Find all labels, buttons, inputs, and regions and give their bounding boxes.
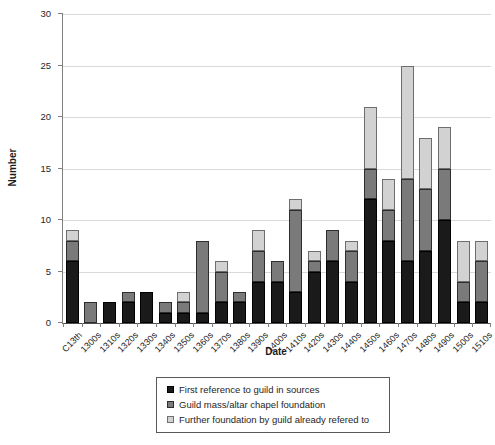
y-axis-tick [58, 168, 63, 169]
legend-label: Guild mass/altar chapel foundation [179, 399, 325, 410]
bar-segment [457, 241, 470, 282]
bar-segment [215, 302, 228, 323]
gridline [63, 14, 491, 15]
legend-item-first-reference: First reference to guild in sources [167, 382, 381, 397]
bar-segment [159, 313, 172, 323]
bar-segment [475, 302, 488, 323]
bar-segment [66, 261, 79, 323]
bar-segment [438, 169, 451, 221]
bar-segment [382, 241, 395, 323]
bar-segment [308, 251, 321, 261]
bar-segment [289, 199, 302, 209]
bar-segment [84, 302, 97, 323]
x-axis-tick-labels: C13th1300s1310s1320s1330s1340s1350s1360s… [62, 323, 490, 363]
bar-segment [401, 179, 414, 261]
bar-segment [345, 282, 358, 323]
bar-segment [103, 302, 116, 323]
y-axis-tick-label: 30 [21, 8, 51, 19]
bar-segment [457, 302, 470, 323]
bar-segment [177, 292, 190, 302]
bar-segment [308, 272, 321, 324]
bar-segment [196, 241, 209, 313]
x-axis-tick [490, 323, 491, 327]
bar-segment [419, 251, 432, 323]
bar-segment [475, 261, 488, 302]
bar-segment [140, 292, 153, 323]
bar-segment [66, 241, 79, 262]
y-axis-tick [58, 116, 63, 117]
black-square-swatch-icon [167, 386, 174, 393]
bar-segment [364, 169, 377, 200]
y-axis-tick [58, 65, 63, 66]
bar-segment [252, 282, 265, 323]
bar-segment [271, 261, 284, 282]
bar-segment [419, 189, 432, 251]
bar-segment [177, 313, 190, 323]
x-axis-title: Date [62, 346, 490, 357]
bar-segment [122, 302, 135, 323]
legend-item-mass-altar: Guild mass/altar chapel foundation [167, 397, 381, 412]
legend-label: Further foundation by guild already refe… [179, 414, 369, 425]
bar-segment [252, 230, 265, 251]
bar-segment [271, 282, 284, 323]
light-gray-square-swatch-icon [167, 416, 174, 423]
bar-segment [289, 210, 302, 292]
bar-segment [233, 292, 246, 302]
bar-segment [215, 272, 228, 303]
y-axis-tick-label: 0 [21, 317, 51, 328]
y-axis-tick-label: 10 [21, 214, 51, 225]
legend-item-further-foundation: Further foundation by guild already refe… [167, 412, 381, 427]
plot-area [62, 14, 491, 324]
bar-segment [345, 241, 358, 251]
bar-segment [177, 302, 190, 312]
bar-segment [252, 251, 265, 282]
bar-segment [364, 107, 377, 169]
bar-segment [382, 179, 395, 210]
y-axis-tick-labels: 051015202530 [28, 14, 58, 323]
bar-segment [66, 230, 79, 240]
chart: Number 051015202530 C13th1300s1310s1320s… [0, 0, 495, 445]
bar-segment [326, 261, 339, 323]
bar-segment [382, 210, 395, 241]
bar-segment [419, 138, 432, 190]
bar-segment [457, 282, 470, 303]
bar-segment [345, 251, 358, 282]
bar-segment [233, 302, 246, 323]
y-axis-tick-label: 20 [21, 111, 51, 122]
y-axis-tick [58, 13, 63, 14]
gridline [63, 66, 491, 67]
bar-segment [196, 313, 209, 323]
y-axis-tick-label: 5 [21, 266, 51, 277]
y-axis-tick [58, 271, 63, 272]
bar-segment [364, 199, 377, 323]
bar-segment [159, 302, 172, 312]
bar-segment [401, 66, 414, 179]
bar-segment [122, 292, 135, 302]
y-axis-tick [58, 219, 63, 220]
y-axis-title: Number [7, 143, 18, 193]
bar-segment [475, 241, 488, 262]
y-axis-tick-label: 25 [21, 60, 51, 71]
bar-segment [215, 261, 228, 271]
y-axis-tick-label: 15 [21, 163, 51, 174]
bar-segment [326, 230, 339, 261]
bar-segment [289, 292, 302, 323]
bar-segment [438, 127, 451, 168]
legend-label: First reference to guild in sources [179, 384, 319, 395]
bar-segment [438, 220, 451, 323]
gridline [63, 117, 491, 118]
bar-segment [401, 261, 414, 323]
legend: First reference to guild in sources Guil… [156, 377, 390, 433]
bar-segment [308, 261, 321, 271]
dark-gray-square-swatch-icon [167, 401, 174, 408]
